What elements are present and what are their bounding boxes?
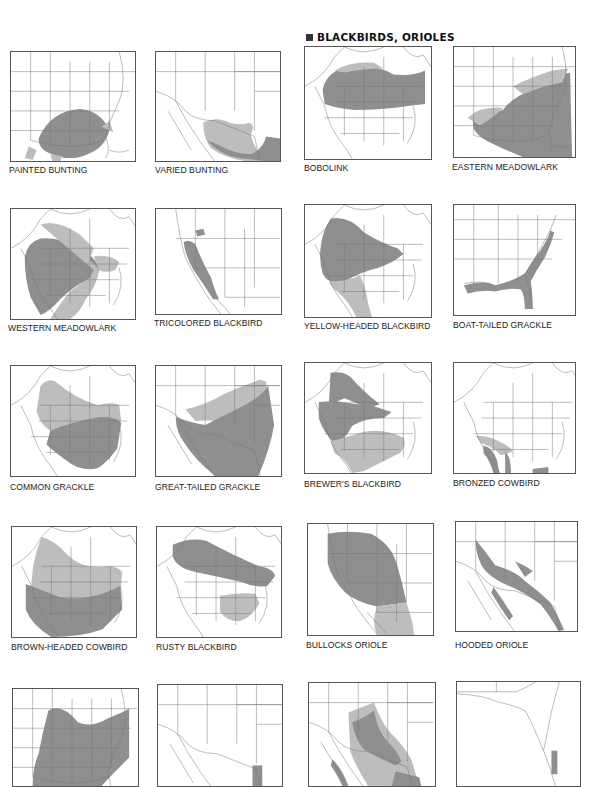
species-label: BOBOLINK xyxy=(304,163,348,173)
state-border-line xyxy=(403,205,431,225)
species-label: COMMON GRACKLE xyxy=(10,482,94,492)
state-border-line xyxy=(168,111,192,150)
state-border-line xyxy=(255,527,281,547)
seasonal-range-shape xyxy=(476,436,513,456)
map-graphic xyxy=(308,524,433,635)
state-border-line xyxy=(344,363,383,368)
state-border-line xyxy=(407,422,415,459)
species-label: BREWER'S BLACKBIRD xyxy=(304,479,401,489)
map-graphic xyxy=(454,363,575,473)
species-label: TRICOLORED BLACKBIRD xyxy=(154,318,262,328)
state-border-line xyxy=(403,363,431,383)
year-round-range-shape xyxy=(173,539,275,586)
state-border-line xyxy=(516,682,536,692)
state-border-line xyxy=(407,106,415,143)
state-border-line xyxy=(403,47,431,67)
range-map xyxy=(307,523,434,636)
year-round-range-shape xyxy=(195,229,205,237)
range-map xyxy=(155,208,282,315)
state-border-line xyxy=(196,527,235,532)
year-round-range-shape xyxy=(184,241,219,299)
range-map xyxy=(155,365,282,477)
section-header: BLACKBIRDS, ORIOLES xyxy=(306,31,455,43)
range-map xyxy=(10,51,136,162)
state-border-line xyxy=(167,566,204,637)
seasonal-range-shape xyxy=(220,593,259,621)
species-label: EASTERN MEADOWLARK xyxy=(452,162,558,172)
state-border-line xyxy=(493,363,532,368)
range-map xyxy=(455,521,578,632)
range-map xyxy=(10,208,136,320)
seasonal-range-shape xyxy=(25,146,37,160)
range-map xyxy=(12,688,139,787)
year-round-range-shape xyxy=(505,451,511,473)
state-border-line xyxy=(321,742,345,781)
state-border-line xyxy=(259,586,267,623)
range-map xyxy=(156,526,282,638)
map-graphic xyxy=(305,205,431,317)
state-border-line xyxy=(344,47,383,52)
map-graphic xyxy=(11,52,135,161)
range-map xyxy=(304,46,432,160)
state-border-line xyxy=(407,264,415,301)
range-map xyxy=(10,365,136,477)
map-graphic xyxy=(305,47,431,159)
state-border-line xyxy=(544,682,560,751)
map-graphic xyxy=(156,209,281,314)
map-graphic xyxy=(454,47,575,157)
species-label: GREAT-TAILED GRACKLE xyxy=(155,482,260,492)
state-border-line xyxy=(556,422,564,459)
state-border-line xyxy=(113,268,121,305)
range-map xyxy=(453,46,576,158)
range-map xyxy=(456,681,581,787)
species-label: PAINTED BUNTING xyxy=(9,165,87,175)
state-border-line xyxy=(552,363,575,383)
year-round-range-shape xyxy=(323,66,425,110)
species-label: RUSTY BLACKBIRD xyxy=(156,642,237,652)
state-border-line xyxy=(50,209,89,214)
section-title: BLACKBIRDS, ORIOLES xyxy=(317,31,455,43)
map-graphic xyxy=(456,522,577,631)
seasonal-range-shape xyxy=(329,276,372,317)
species-label: BULLOCKS ORIOLE xyxy=(306,640,387,650)
range-map xyxy=(11,526,137,638)
map-graphic xyxy=(454,205,575,315)
state-border-line xyxy=(468,581,492,620)
year-round-range-shape xyxy=(328,532,407,607)
state-border-line xyxy=(109,209,135,229)
state-border-line xyxy=(215,297,235,314)
map-graphic xyxy=(157,527,281,637)
state-border-line xyxy=(344,205,383,210)
map-graphic xyxy=(12,527,136,637)
map-graphic xyxy=(309,683,435,786)
state-border-line xyxy=(457,694,555,786)
seasonal-range-shape xyxy=(31,537,122,600)
range-map xyxy=(304,362,432,474)
species-label: HOODED ORIOLE xyxy=(455,640,528,650)
year-round-range-shape xyxy=(464,231,555,310)
species-label: WESTERN MEADOWLARK xyxy=(8,323,116,333)
map-graphic xyxy=(158,685,282,786)
state-border-line xyxy=(51,527,90,532)
state-border-line xyxy=(178,734,217,786)
state-border-line xyxy=(158,724,262,786)
map-graphic xyxy=(305,363,431,473)
year-round-range-shape xyxy=(39,109,110,158)
seasonal-range-shape xyxy=(374,603,414,635)
state-border-line xyxy=(110,527,136,547)
state-border-line xyxy=(50,366,89,371)
year-round-range-shape xyxy=(533,467,549,473)
species-label: BRONZED COWBIRD xyxy=(453,478,540,488)
square-bullet-icon xyxy=(306,34,313,41)
map-graphic xyxy=(156,366,281,476)
species-label: VARIED BUNTING xyxy=(155,165,228,175)
range-map xyxy=(155,51,281,162)
state-border-line xyxy=(170,744,194,783)
species-label: BROWN-HEADED COWBIRD xyxy=(11,642,128,652)
map-graphic xyxy=(457,682,580,786)
year-round-range-shape xyxy=(515,561,533,577)
year-round-range-shape xyxy=(551,751,557,775)
state-border-line xyxy=(109,366,135,386)
year-round-range-shape xyxy=(476,540,565,631)
range-map xyxy=(308,682,436,787)
